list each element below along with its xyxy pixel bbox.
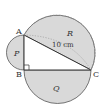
label-region-q: Q bbox=[53, 84, 60, 93]
label-region-p: P bbox=[13, 49, 20, 58]
label-point-c: C bbox=[93, 70, 99, 79]
label-length-ac: 10 cm bbox=[52, 41, 74, 49]
label-region-r: R bbox=[66, 29, 73, 38]
geometry-figure: A B C P Q R 10 cm bbox=[0, 0, 104, 112]
label-point-b: B bbox=[16, 70, 22, 79]
diagram-canvas: A B C P Q R 10 cm bbox=[0, 0, 104, 112]
label-point-a: A bbox=[15, 27, 22, 36]
